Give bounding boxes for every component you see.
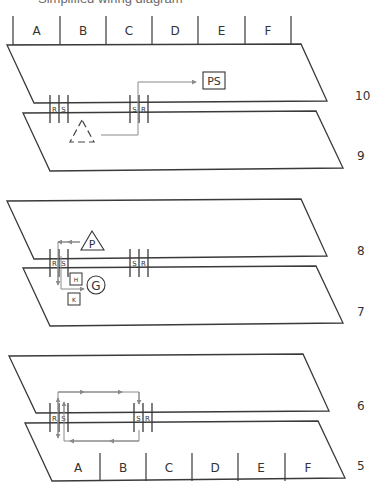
g-label: G xyxy=(91,279,100,293)
ps-label: PS xyxy=(207,75,221,88)
k-box: K xyxy=(68,293,80,305)
bottom-column-label: E xyxy=(257,461,265,475)
top-column-header: ABCDEF xyxy=(13,16,291,45)
top-column-label: E xyxy=(218,24,226,38)
top-column-label: F xyxy=(265,24,272,38)
connector-letter: R xyxy=(52,415,57,423)
plane-number-7: 7 xyxy=(357,305,365,319)
connector-letter: R xyxy=(141,260,146,268)
plane-6 xyxy=(9,354,329,413)
connector-letter: R xyxy=(145,415,150,423)
g-circle-icon: G xyxy=(87,276,105,294)
panel-2: 8 7 RSSR P H G K xyxy=(7,199,365,326)
plane-8 xyxy=(7,199,327,259)
plane-number-5: 5 xyxy=(357,459,365,473)
panel-1: 10 9 RSSR PS xyxy=(7,44,370,171)
h-box: H xyxy=(70,273,82,285)
connector-letter: R xyxy=(52,106,57,114)
bottom-column-label: B xyxy=(119,461,127,475)
connector-letter: S xyxy=(61,106,66,114)
plane-10 xyxy=(7,44,327,103)
connector-letter: S xyxy=(136,415,141,423)
top-column-label: C xyxy=(125,24,133,38)
h-label: H xyxy=(74,276,79,283)
ps-box: PS xyxy=(203,72,225,89)
bottom-column-label: D xyxy=(210,461,219,475)
top-column-label: A xyxy=(32,24,41,38)
connector-letter: S xyxy=(61,260,66,268)
wiring-diagram: ABCDEF 10 9 RSSR PS 8 7 RSSR P xyxy=(0,0,373,482)
bottom-column-label: F xyxy=(305,461,312,475)
plane-number-9: 9 xyxy=(357,149,365,163)
panel-3: 6 5 RSSR ABCDEF xyxy=(9,354,365,481)
plane-number-8: 8 xyxy=(357,244,365,258)
connector-letter: R xyxy=(141,106,146,114)
plane-number-10: 10 xyxy=(355,89,370,103)
top-column-label: B xyxy=(79,24,87,38)
connector-letter: S xyxy=(132,260,137,268)
connector-letter: S xyxy=(132,106,137,114)
bottom-column-label: C xyxy=(165,461,173,475)
p-label: P xyxy=(89,238,96,251)
top-column-label: D xyxy=(170,24,179,38)
connector-letter: R xyxy=(52,260,57,268)
plane-number-6: 6 xyxy=(357,399,365,413)
bottom-column-label: A xyxy=(74,461,83,475)
